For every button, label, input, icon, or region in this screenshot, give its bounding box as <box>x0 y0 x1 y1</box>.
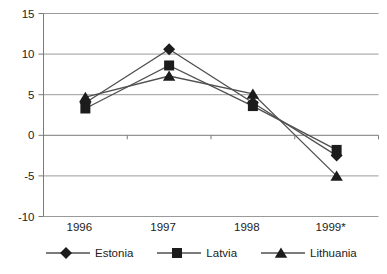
x-axis-label: 1998 <box>234 221 260 233</box>
legend-label-latvia: Latvia <box>206 247 237 259</box>
y-axis-tick-label: 10 <box>22 48 35 60</box>
y-axis-tick-label: 0 <box>28 129 34 141</box>
marker-latvia-1999 <box>332 145 342 155</box>
marker-estonia-1997 <box>163 43 175 55</box>
y-axis-tick-label: -5 <box>24 170 34 182</box>
square-marker-icon <box>157 246 201 260</box>
marker-latvia-1996 <box>80 104 90 114</box>
x-axis-label: 1999* <box>316 221 347 233</box>
x-axis-label: 1997 <box>150 221 176 233</box>
x-axis-label: 1996 <box>67 221 93 233</box>
legend-item-lithuania: Lithuania <box>261 246 357 260</box>
diamond-marker-icon <box>46 246 90 260</box>
series-line-lithuania <box>85 76 336 176</box>
marker-lithuania-1996 <box>79 92 91 102</box>
legend-label-lithuania: Lithuania <box>310 247 357 259</box>
legend-item-estonia: Estonia <box>46 246 133 260</box>
legend-marker-square <box>172 248 182 258</box>
chart-legend: Estonia Latvia Lithuania <box>46 246 357 260</box>
y-axis-tick-label: 15 <box>22 8 35 20</box>
legend-item-latvia: Latvia <box>157 246 237 260</box>
chart-panel: -10-50510151996199719981999* Estonia Lat… <box>0 0 387 274</box>
legend-marker-diamond <box>60 247 72 259</box>
legend-label-estonia: Estonia <box>95 247 133 259</box>
y-axis-tick-label: 5 <box>28 89 34 101</box>
marker-lithuania-1997 <box>163 71 175 81</box>
triangle-marker-icon <box>261 246 305 260</box>
y-axis-tick-label: -10 <box>18 211 35 223</box>
line-chart: -10-50510151996199719981999* <box>0 0 387 274</box>
marker-latvia-1997 <box>164 60 174 70</box>
marker-latvia-1998 <box>248 101 258 111</box>
